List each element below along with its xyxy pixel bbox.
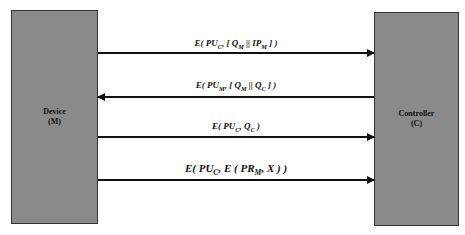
controller-name: Controller xyxy=(375,109,458,119)
message-2-label: E( PUM, [ QM || QC ] ) xyxy=(98,80,374,92)
device-name: Device xyxy=(12,107,97,117)
arrowhead-left-icon xyxy=(97,93,105,101)
controller-label: Controller (C) xyxy=(375,109,458,129)
message-2-arrow xyxy=(98,96,374,98)
controller-id: (C) xyxy=(375,119,458,129)
arrowhead-right-icon xyxy=(367,133,375,141)
device-label: Device (M) xyxy=(12,107,97,127)
device-box: Device (M) xyxy=(11,10,98,224)
message-1-arrow xyxy=(98,52,374,54)
message-4-label: E( PUC, E ( PRM, X ) ) xyxy=(98,162,374,177)
arrowhead-right-icon xyxy=(367,49,375,57)
controller-box: Controller (C) xyxy=(374,12,459,226)
message-4-arrow xyxy=(98,179,374,181)
arrowhead-right-icon xyxy=(367,176,375,184)
message-1-label: E( PUC, [ QM || IPM ] ) xyxy=(98,38,374,50)
device-id: (M) xyxy=(12,117,97,127)
message-3-arrow xyxy=(98,136,374,138)
message-3-label: E( PUC, QC ) xyxy=(98,121,374,133)
